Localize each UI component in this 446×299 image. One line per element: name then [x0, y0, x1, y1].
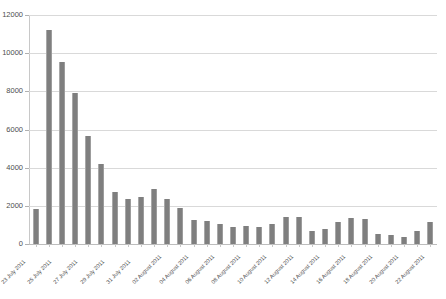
y-axis-tick-labels: 020004000600080001000012000 — [0, 0, 23, 299]
bar-slot — [371, 15, 384, 244]
x-tick-mark — [154, 244, 155, 247]
x-tick-mark — [207, 244, 208, 247]
bar-slot — [42, 15, 55, 244]
x-tick-mark — [312, 244, 313, 247]
bar[interactable] — [85, 136, 91, 244]
bar[interactable] — [322, 229, 328, 244]
x-tick-mark — [259, 244, 260, 247]
x-tick-mark — [194, 244, 195, 247]
bar[interactable] — [283, 217, 289, 244]
bar-slot — [161, 15, 174, 244]
y-tick-label: 6000 — [0, 126, 23, 134]
x-tick-mark — [272, 244, 273, 247]
bar-slot — [121, 15, 134, 244]
bar[interactable] — [125, 199, 131, 244]
bar[interactable] — [177, 208, 183, 244]
bar-slot — [398, 15, 411, 244]
bar[interactable] — [296, 217, 302, 244]
bar[interactable] — [309, 231, 315, 244]
bar-slot — [292, 15, 305, 244]
bar-slot — [411, 15, 424, 244]
x-tick-mark — [233, 244, 234, 247]
x-tick-mark — [128, 244, 129, 247]
bar-slot — [226, 15, 239, 244]
x-tick-mark — [75, 244, 76, 247]
y-tick-mark — [25, 206, 29, 207]
x-tick-mark — [325, 244, 326, 247]
bar-slot — [424, 15, 437, 244]
x-tick-label: 22 August 2011 — [395, 254, 426, 285]
bar[interactable] — [362, 219, 368, 244]
x-tick-mark — [180, 244, 181, 247]
bar[interactable] — [401, 237, 407, 244]
bar-chart: 020004000600080001000012000 23 July 2011… — [0, 0, 446, 299]
bar-slot — [319, 15, 332, 244]
bar-slot — [82, 15, 95, 244]
x-tick-mark — [115, 244, 116, 247]
bar[interactable] — [414, 231, 420, 244]
x-tick-label: 25 July 2011 — [27, 259, 53, 285]
x-tick-mark — [286, 244, 287, 247]
bar-slot — [95, 15, 108, 244]
y-tick-mark — [25, 91, 29, 92]
y-tick-mark — [25, 168, 29, 169]
bar-slot — [384, 15, 397, 244]
bar-slot — [29, 15, 42, 244]
x-tick-mark — [299, 244, 300, 247]
x-tick-mark — [101, 244, 102, 247]
bar[interactable] — [72, 93, 78, 244]
bar-slot — [213, 15, 226, 244]
y-tick-label: 8000 — [0, 88, 23, 96]
x-tick-mark — [365, 244, 366, 247]
bar-slot — [266, 15, 279, 244]
x-tick-mark — [338, 244, 339, 247]
bar[interactable] — [164, 199, 170, 244]
bar[interactable] — [46, 30, 52, 244]
y-tick-label: 4000 — [0, 164, 23, 172]
bar-slot — [134, 15, 147, 244]
bar-slot — [305, 15, 318, 244]
y-tick-mark — [25, 53, 29, 54]
bar[interactable] — [335, 222, 341, 244]
bar[interactable] — [256, 227, 262, 244]
bar[interactable] — [269, 224, 275, 244]
bar[interactable] — [388, 235, 394, 244]
bar[interactable] — [151, 189, 157, 244]
bar[interactable] — [138, 197, 144, 244]
bar-slot — [332, 15, 345, 244]
y-tick-mark — [25, 15, 29, 16]
bar[interactable] — [98, 164, 104, 244]
y-tick-mark — [25, 244, 29, 245]
bar[interactable] — [375, 234, 381, 244]
bar-slot — [358, 15, 371, 244]
x-tick-mark — [246, 244, 247, 247]
x-axis-tick-labels: 23 July 201125 July 201127 July 201129 J… — [29, 246, 437, 299]
x-tick-mark — [167, 244, 168, 247]
bar-slot — [240, 15, 253, 244]
bar[interactable] — [217, 224, 223, 244]
bar-slot — [253, 15, 266, 244]
bar-slot — [345, 15, 358, 244]
x-tick-mark — [351, 244, 352, 247]
bar-slot — [200, 15, 213, 244]
bar[interactable] — [33, 209, 39, 244]
x-tick-label: 31 July 2011 — [106, 259, 132, 285]
bar[interactable] — [427, 222, 433, 244]
x-tick-mark — [430, 244, 431, 247]
bar[interactable] — [59, 62, 65, 244]
bar-slot — [174, 15, 187, 244]
bar[interactable] — [243, 226, 249, 244]
bar-slot — [108, 15, 121, 244]
y-tick-label: 12000 — [0, 11, 23, 19]
x-tick-label: 29 July 2011 — [79, 259, 105, 285]
bar[interactable] — [112, 192, 118, 244]
x-tick-mark — [391, 244, 392, 247]
bar[interactable] — [348, 218, 354, 244]
bar[interactable] — [191, 220, 197, 244]
x-tick-mark — [88, 244, 89, 247]
y-tick-label: 0 — [0, 240, 23, 248]
bar[interactable] — [204, 221, 210, 244]
bar[interactable] — [230, 227, 236, 244]
y-tick-mark — [25, 130, 29, 131]
x-tick-mark — [62, 244, 63, 247]
